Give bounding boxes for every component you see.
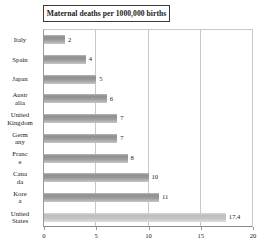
- bar-value-label: 11: [162, 194, 168, 201]
- y-axis-label: Canada: [0, 168, 40, 188]
- bar-value-label: 6: [110, 96, 113, 103]
- bar[interactable]: [44, 75, 96, 84]
- bar-row: 7: [44, 129, 253, 149]
- y-axis-label: Australia: [0, 89, 40, 109]
- bar-row: 2: [44, 30, 253, 50]
- bar-row: 17.4: [44, 207, 253, 227]
- y-axis-label-line: any: [15, 138, 25, 146]
- x-axis-tick: [201, 227, 202, 230]
- x-axis-tick: [44, 227, 45, 230]
- bar[interactable]: [44, 94, 107, 103]
- bar-row: 11: [44, 188, 253, 208]
- bar-row: 6: [44, 89, 253, 109]
- y-axis-label-line: Kingdom: [7, 119, 33, 127]
- bar[interactable]: [44, 173, 149, 182]
- y-axis-label-line: a: [18, 197, 21, 205]
- x-axis-tick-label: 0: [42, 232, 45, 239]
- x-axis-tick: [149, 227, 150, 230]
- y-axis-label: Germany: [0, 129, 40, 149]
- bar-value-label: 2: [68, 37, 71, 44]
- y-axis-label: Japan: [0, 69, 40, 89]
- bar[interactable]: [44, 193, 159, 202]
- bar-value-label: 5: [99, 76, 102, 83]
- bar[interactable]: [44, 35, 65, 44]
- bar-value-label: 10: [152, 174, 159, 181]
- bar-value-label: 17.4: [229, 214, 241, 221]
- x-axis-tick-label: 10: [145, 232, 152, 239]
- y-axis-label-line: United: [11, 111, 30, 119]
- y-axis-label: Italy: [0, 30, 40, 50]
- bar[interactable]: [44, 154, 128, 163]
- y-axis-label-line: Franc: [12, 150, 27, 158]
- y-axis-label-line: United: [11, 210, 30, 218]
- y-axis-label: Spain: [0, 50, 40, 70]
- y-axis-label-line: Japan: [12, 75, 27, 83]
- x-axis-tick: [96, 227, 97, 230]
- bar-value-label: 7: [120, 135, 123, 142]
- y-axis-label-line: Cana: [13, 170, 27, 178]
- y-axis-label-line: e: [18, 158, 21, 166]
- x-axis-tick-label: 5: [95, 232, 98, 239]
- y-axis-label-line: Kore: [13, 190, 27, 198]
- page-title: Maternal deaths per 1000,000 births: [47, 9, 167, 18]
- bar-row: 10: [44, 168, 253, 188]
- bar-row: 5: [44, 69, 253, 89]
- y-axis-label: UnitedKingdom: [0, 109, 40, 129]
- bar-row: 7: [44, 109, 253, 129]
- y-axis-label-line: da: [17, 178, 23, 186]
- y-axis-label-line: Austr: [12, 91, 27, 99]
- y-axis-label-line: Italy: [14, 36, 26, 44]
- bar-row: 4: [44, 50, 253, 70]
- x-axis-tick: [253, 227, 254, 230]
- bar-row: 8: [44, 148, 253, 168]
- bars-layer: 2456778101117.4: [44, 30, 253, 227]
- y-axis-label-line: Spain: [12, 56, 27, 64]
- y-axis-label: Korea: [0, 188, 40, 208]
- y-axis-labels: ItalySpainJapanAustraliaUnitedKingdomGer…: [0, 30, 40, 227]
- bar-chart: Maternal deaths per 1000,000 births Ital…: [0, 0, 262, 248]
- bar[interactable]: [44, 114, 117, 123]
- y-axis-label-line: Germ: [12, 131, 27, 139]
- y-axis-label: France: [0, 148, 40, 168]
- y-axis-label-line: States: [12, 217, 28, 225]
- bar-value-label: 4: [89, 56, 92, 63]
- x-axis-tick-label: 15: [197, 232, 204, 239]
- bar[interactable]: [44, 134, 117, 143]
- chart-title-box: Maternal deaths per 1000,000 births: [43, 5, 170, 22]
- bar-value-label: 8: [131, 155, 134, 162]
- y-axis-label: UnitedStates: [0, 207, 40, 227]
- bar[interactable]: [44, 213, 226, 222]
- x-axis: 05101520: [43, 227, 254, 248]
- bar[interactable]: [44, 55, 86, 64]
- x-axis-tick-label: 20: [250, 232, 257, 239]
- bar-value-label: 7: [120, 115, 123, 122]
- y-axis-label-line: alia: [15, 99, 25, 107]
